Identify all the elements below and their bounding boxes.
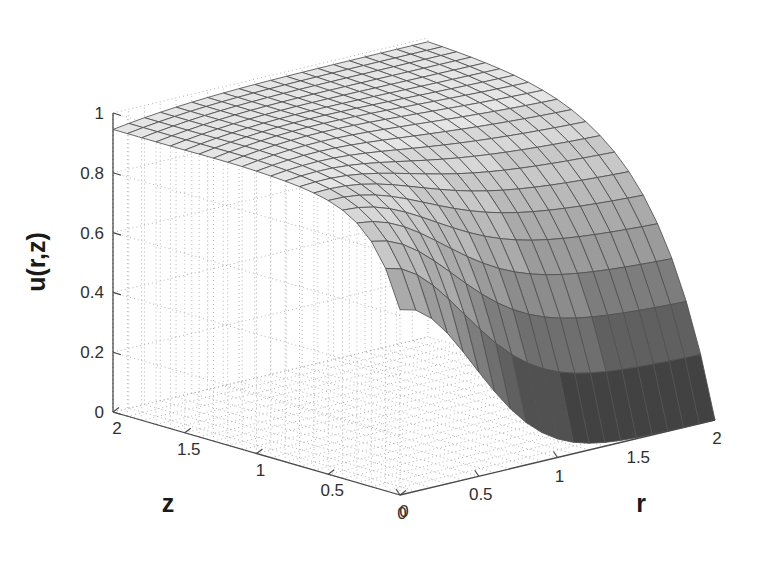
surface-plot-svg: 00.20.40.60.8100.511.5200.511.52u(r,z)zr: [0, 0, 764, 564]
z-tick-label-1: 0.5: [320, 481, 344, 500]
u-axis-tick: [113, 233, 121, 236]
u-axis-tick: [113, 352, 121, 355]
z-axis-tick: [113, 408, 119, 413]
u-tick-label-4: 0.8: [80, 164, 104, 183]
figure-canvas: 00.20.40.60.8100.511.5200.511.52u(r,z)zr…: [0, 0, 764, 564]
z-tick-label-2: 1: [256, 461, 265, 480]
r-tick-label-2: 1: [555, 467, 564, 486]
r-tick-label-4: 2: [712, 429, 721, 448]
r-axis-tick: [475, 470, 479, 476]
r-tick-label-0: 0: [397, 504, 406, 523]
r-tick-label-3: 1.5: [626, 448, 650, 467]
z-axis-tick: [185, 428, 191, 433]
surface-mesh: [113, 42, 715, 443]
r-axis-tick: [554, 452, 558, 458]
u-tick-label-2: 0.4: [80, 283, 104, 302]
u-axis-tick: [113, 173, 121, 176]
z-tick-label-3: 1.5: [177, 440, 201, 459]
u-tick-label-0: 0: [95, 403, 104, 422]
u-tick-label-5: 1: [95, 104, 104, 123]
z-axis-title: u(r,z): [22, 232, 50, 292]
u-tick-label-1: 0.2: [80, 343, 104, 362]
u-axis-tick: [113, 292, 121, 295]
u-tick-label-3: 0.6: [80, 224, 104, 243]
z-tick-label-4: 2: [112, 419, 121, 438]
u-axis-tick: [113, 412, 121, 415]
x-axis-title: r: [636, 489, 646, 517]
u-axis-tick: [113, 113, 121, 116]
z-axis-tick: [257, 449, 263, 454]
y-axis-title: z: [162, 489, 175, 517]
r-tick-label-1: 0.5: [469, 485, 493, 504]
z-axis-tick: [328, 470, 334, 475]
